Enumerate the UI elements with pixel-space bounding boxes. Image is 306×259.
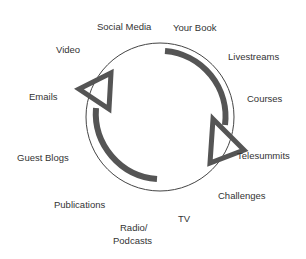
label-radio: Radio/ — [120, 222, 147, 233]
cycle-graphic — [0, 0, 306, 259]
label-your-book: Your Book — [173, 22, 217, 33]
right-arc — [165, 51, 226, 125]
left-arrowhead-icon — [79, 73, 111, 109]
label-livestreams: Livestreams — [228, 51, 279, 62]
label-social-media: Social Media — [97, 21, 151, 32]
label-telesummits: Telesummits — [237, 150, 290, 161]
label-courses: Courses — [247, 93, 282, 104]
label-publications: Publications — [54, 199, 105, 210]
label-challenges: Challenges — [218, 190, 266, 201]
label-tv: TV — [178, 213, 190, 224]
label-guest-blogs: Guest Blogs — [17, 152, 69, 163]
label-video: Video — [56, 44, 80, 55]
label-podcasts: Podcasts — [113, 235, 152, 246]
marketing-cycle-diagram: Social Media Your Book Video Livestreams… — [0, 0, 306, 259]
label-emails: Emails — [29, 91, 58, 102]
left-arc — [96, 108, 157, 179]
